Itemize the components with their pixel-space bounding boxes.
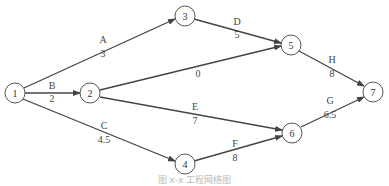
node-label: 4: [183, 159, 188, 170]
activity-label-f: F: [232, 138, 238, 149]
activity-label-c: C: [101, 120, 108, 131]
node-1: 1: [5, 83, 25, 103]
edge-2-5-dummy: 0: [100, 46, 281, 90]
duration-label-g: 6.5: [324, 109, 337, 120]
duration-label-dummy: 0: [196, 68, 201, 79]
node-3: 3: [175, 6, 195, 26]
node-label: 5: [289, 40, 294, 51]
edge-5-7: H 8: [299, 51, 364, 86]
node-5: 5: [281, 35, 301, 55]
network-diagram: A 3 B 2 C 4.5 D 5 0 E 7 F 8 H 8 G 6.5: [0, 0, 389, 186]
activity-label-e: E: [192, 101, 198, 112]
duration-label-e: 7: [193, 115, 198, 126]
node-6: 6: [282, 123, 302, 143]
edge-2-6: E 7: [100, 97, 282, 130]
activity-label-h: H: [328, 54, 335, 65]
duration-label-a: 3: [101, 48, 106, 59]
edge-6-7: G 6.5: [301, 95, 364, 127]
activity-label-g: G: [326, 95, 333, 106]
duration-label-d: 5: [235, 29, 240, 40]
duration-label-f: 8: [233, 152, 238, 163]
node-4: 4: [175, 154, 195, 174]
duration-label-b: 2: [50, 93, 55, 104]
activity-label-b: B: [49, 80, 56, 91]
activity-label-a: A: [99, 34, 107, 45]
duration-label-c: 4.5: [98, 134, 111, 145]
node-label: 1: [13, 88, 18, 99]
edge-3-5: D 5: [194, 16, 281, 43]
node-label: 6: [290, 128, 295, 139]
duration-label-h: 8: [330, 68, 335, 79]
node-label: 7: [371, 87, 376, 98]
node-label: 3: [183, 11, 188, 22]
node-label: 2: [88, 88, 93, 99]
node-7: 7: [363, 82, 383, 102]
edge-4-6: F 8: [194, 136, 282, 163]
node-2: 2: [80, 83, 100, 103]
edge-1-4: C 4.5: [23, 99, 175, 161]
figure-caption: 图 x-x 工程网络图: [0, 173, 389, 186]
activity-label-d: D: [233, 16, 240, 27]
